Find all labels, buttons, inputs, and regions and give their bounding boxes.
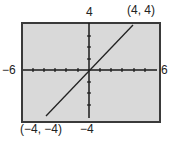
y-max-label: 4 (86, 6, 93, 18)
point-lower-label: (−4, −4) (20, 123, 62, 135)
x-min-label: −6 (2, 64, 16, 76)
x-max-label: 6 (161, 64, 168, 76)
point-upper-label: (4, 4) (127, 4, 155, 16)
y-min-label: −4 (80, 123, 94, 135)
plot-area (0, 0, 171, 142)
